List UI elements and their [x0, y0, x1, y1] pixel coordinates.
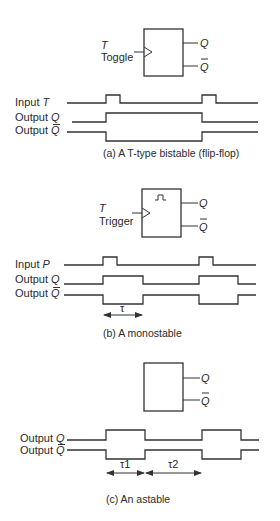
tau-label: τ — [120, 302, 125, 314]
waveform-output-qbar — [64, 295, 256, 304]
t-flipflop-block: T Toggle Q Q — [101, 29, 209, 76]
signal-label-input-p: Input P — [15, 258, 51, 270]
label-symbol: Q — [51, 287, 60, 299]
label-symbol: Q — [56, 444, 65, 456]
waveform-output-qbar — [67, 450, 259, 459]
signal-labels: Input T Output Q Output Q — [15, 96, 60, 136]
block-body — [144, 363, 183, 411]
astable-block: Q Q — [144, 363, 210, 411]
signal-labels: Input P Output Q Output Q — [15, 258, 60, 299]
signal-label-output-qbar: Output Q — [20, 444, 65, 456]
signal-label-input-t: Input T — [15, 96, 51, 108]
caption-b: (b) A monostable — [103, 327, 182, 339]
signal-label-output-q: Output Q — [15, 111, 60, 123]
input-name: Trigger — [99, 215, 134, 227]
output-qbar-label: Q — [201, 395, 210, 407]
label-symbol: Q — [56, 432, 65, 444]
label-prefix: Output — [15, 111, 51, 123]
tau2-label: τ2 — [168, 458, 178, 470]
label-prefix: Output — [20, 444, 56, 456]
output-q-label: Q — [199, 197, 208, 209]
input-symbol: T — [101, 39, 109, 51]
label-symbol: Q — [51, 124, 60, 136]
output-qbar-label: Q — [200, 61, 209, 73]
panel-t-bistable: T Toggle Q Q Input T Output Q Output Q (… — [15, 29, 258, 159]
signal-label-output-q: Output Q — [15, 273, 60, 285]
panel-astable: Q Q Output Q Output Q τ1 τ2 (c) An astab… — [20, 363, 259, 505]
label-prefix: Output — [20, 432, 56, 444]
pulse-icon — [155, 195, 166, 200]
clock-input-icon — [142, 208, 150, 218]
signal-label-output-q: Output Q — [20, 432, 65, 444]
panel-monostable: T Trigger Q Q Input P Output Q Output Q … — [15, 189, 256, 339]
label-symbol: Q — [51, 111, 60, 123]
label-prefix: Input — [15, 258, 43, 270]
label-symbol: Q — [51, 273, 60, 285]
signal-label-output-qbar: Output Q — [15, 124, 60, 136]
clock-input-icon — [144, 47, 152, 57]
output-q-label: Q — [201, 372, 210, 384]
waveform-input-p — [64, 257, 256, 265]
tau1-label: τ1 — [120, 458, 130, 470]
waveform-output-q — [72, 113, 258, 122]
label-prefix: Output — [15, 124, 51, 136]
label-prefix: Input — [15, 96, 43, 108]
signal-labels: Output Q Output Q — [20, 432, 65, 456]
monostable-block: T Trigger Q Q — [99, 189, 208, 237]
caption-a: (a) A T-type bistable (flip-flop) — [103, 147, 239, 159]
waveform-output-q — [67, 430, 259, 440]
block-body — [142, 189, 181, 237]
label-symbol: P — [43, 258, 51, 270]
waveform-output-qbar — [67, 132, 258, 141]
caption-c: (c) An astable — [106, 493, 170, 505]
block-body — [144, 29, 183, 76]
input-symbol: T — [99, 202, 107, 214]
waveform-output-q — [64, 276, 256, 284]
multivibrator-diagram: T Toggle Q Q Input T Output Q Output Q (… — [0, 0, 280, 521]
label-prefix: Output — [15, 287, 51, 299]
label-symbol: T — [43, 96, 51, 108]
output-q-label: Q — [200, 37, 209, 49]
waveform-input-t — [67, 95, 258, 103]
signal-label-output-qbar: Output Q — [15, 287, 60, 299]
input-name: Toggle — [101, 51, 133, 63]
label-prefix: Output — [15, 273, 51, 285]
output-qbar-label: Q — [199, 221, 208, 233]
